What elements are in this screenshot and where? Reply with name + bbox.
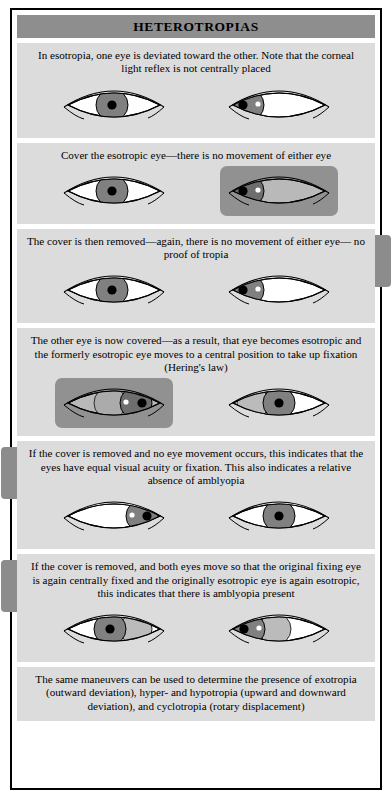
right-eye-slot: [220, 378, 338, 428]
eye-pair-row: [27, 602, 365, 656]
eye-diagram-central: [62, 267, 166, 313]
left-eye-slot: [55, 491, 173, 541]
left-eye-slot: [55, 604, 173, 654]
eye-pair-row: [27, 263, 365, 317]
panel-caption: In esotropia, one eye is deviated toward…: [27, 49, 365, 76]
right-eye-slot: [220, 265, 338, 315]
panel-caption: If the cover is removed, and both eyes m…: [27, 560, 365, 600]
right-eye-slot: [220, 604, 338, 654]
panel-no-movement-no-amblyopia: If the cover is removed and no eye movem…: [17, 441, 375, 549]
page-title: HETEROTROPIAS: [133, 19, 259, 35]
panel-caption: Cover the esotropic eye—there is no move…: [27, 149, 365, 162]
panel-amblyopia-present: If the cover is removed, and both eyes m…: [17, 554, 375, 662]
eye-diagram-central: [62, 168, 166, 214]
plate-inner: HETEROTROPIAS In esotropia, one eye is d…: [12, 10, 380, 788]
side-tab-left: [1, 447, 17, 499]
side-tab-right: [375, 235, 391, 287]
left-eye-slot: [55, 80, 173, 130]
eye-diagram-central: [62, 82, 166, 128]
plate-frame: HETEROTROPIAS In esotropia, one eye is d…: [10, 8, 382, 790]
right-eye-slot: [220, 80, 338, 130]
panel-other-deviations: The same maneuvers can be used to determ…: [17, 667, 375, 721]
left-eye-slot-covered: [55, 378, 173, 428]
left-eye-slot: [55, 166, 173, 216]
eye-diagram-esotropic-covered: [227, 168, 331, 214]
eye-diagram-central-ghost: [62, 606, 166, 652]
heterotropias-plate: HETEROTROPIAS In esotropia, one eye is d…: [0, 0, 392, 794]
eye-diagram-esotropic: [227, 82, 331, 128]
eye-diagram-esotropic: [227, 267, 331, 313]
eye-pair-row: [27, 164, 365, 218]
right-eye-slot-covered: [220, 166, 338, 216]
side-tab-left: [1, 560, 17, 612]
eye-diagram-central-ghost: [227, 380, 331, 426]
left-eye-slot: [55, 265, 173, 315]
panel-caption: If the cover is removed and no eye movem…: [27, 447, 365, 487]
panel-other-eye-covered: The other eye is now covered—as a result…: [17, 328, 375, 436]
right-eye-slot: [220, 491, 338, 541]
panel-cover-removed: The cover is then removed—again, there i…: [17, 229, 375, 324]
eye-pair-row: [27, 376, 365, 430]
panel-cover-esotropic-eye: Cover the esotropic eye—there is no move…: [17, 143, 375, 224]
eye-pair-row: [27, 489, 365, 543]
plate-title-band: HETEROTROPIAS: [17, 15, 375, 38]
panel-caption: The same maneuvers can be used to determ…: [27, 673, 365, 713]
eye-diagram-esotropic-covered-ghost: [62, 380, 166, 426]
panel-caption: The cover is then removed—again, there i…: [27, 235, 365, 262]
eye-diagram-esotropic-ghost: [227, 606, 331, 652]
eye-diagram-exo-deviated: [62, 493, 166, 539]
eye-pair-row: [27, 78, 365, 132]
panel-esotropia: In esotropia, one eye is deviated toward…: [17, 43, 375, 138]
panel-caption: The other eye is now covered—as a result…: [27, 334, 365, 374]
eye-diagram-central: [227, 493, 331, 539]
